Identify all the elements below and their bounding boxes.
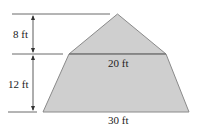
trapezoid-height-dimension-arrow xyxy=(31,55,35,111)
triangle-height-label: 8 ft xyxy=(13,28,28,40)
arrowhead-up-icon xyxy=(31,15,35,20)
triangle-height-dimension-arrow xyxy=(31,15,35,53)
trapezoid-height-label: 12 ft xyxy=(8,78,28,90)
top-width-label: 20 ft xyxy=(108,57,128,69)
arrowhead-down-icon xyxy=(31,48,35,53)
composite-shape-diagram: 8 ft 12 ft 20 ft 30 ft xyxy=(0,0,199,131)
triangle-shape xyxy=(69,14,166,54)
arrowhead-down-icon xyxy=(31,106,35,111)
arrowhead-up-icon xyxy=(31,55,35,60)
bottom-width-label: 30 ft xyxy=(108,114,128,126)
